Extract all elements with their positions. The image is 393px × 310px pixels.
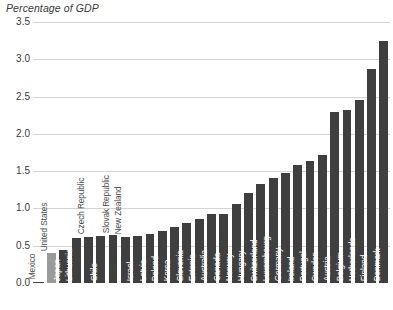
x-axis-category-label: Poland bbox=[151, 256, 159, 281]
x-axis-category-label: Switzerland bbox=[249, 239, 257, 281]
x-axis-category-label: Hungary bbox=[237, 250, 245, 281]
x-axis-category-label: Latvia bbox=[138, 259, 146, 281]
bar-slot: Israel bbox=[132, 22, 144, 283]
x-axis-category-label: United States bbox=[40, 203, 48, 252]
x-axis-category-label: Mexico bbox=[28, 254, 36, 280]
x-axis-category-label: Japan bbox=[52, 259, 60, 281]
x-axis-category-label: Australia bbox=[200, 250, 208, 281]
y-axis-tick-label: 2.5 bbox=[2, 91, 30, 102]
bar-slot: Chile bbox=[95, 22, 107, 283]
x-axis-category-label: Slovak Republic bbox=[102, 175, 110, 233]
bar-slot: Canada bbox=[218, 22, 230, 283]
bar[interactable]: Mexico bbox=[35, 282, 44, 283]
x-axis-category-label: Netherlands bbox=[348, 237, 356, 281]
bar[interactable]: Denmark bbox=[379, 41, 388, 283]
bar-slot: Estonia bbox=[193, 22, 205, 283]
bar-series: MexicoUnited StatesJapanLithuaniaCzech R… bbox=[33, 22, 390, 283]
y-axis-tick-label: 3.0 bbox=[2, 53, 30, 64]
bar-slot: Portugal bbox=[304, 22, 316, 283]
x-axis-category-label: Ireland bbox=[286, 256, 294, 281]
x-axis-category-label: Canada bbox=[212, 253, 220, 281]
bar-slot: Australia bbox=[205, 22, 217, 283]
x-axis-category-label: Portugal bbox=[299, 251, 307, 281]
bar-slot: Poland bbox=[156, 22, 168, 283]
bar-slot: Japan bbox=[58, 22, 70, 283]
x-axis-category-label: Austria bbox=[323, 256, 331, 281]
y-axis-tick-label: 1.0 bbox=[2, 202, 30, 213]
chart-title: Percentage of GDP bbox=[6, 2, 99, 14]
x-axis-category-label: Finland bbox=[360, 254, 368, 281]
x-axis-category-label: Czech Republic bbox=[77, 178, 85, 235]
bar-chart: Percentage of GDP 0.00.51.01.52.02.53.03… bbox=[0, 0, 393, 310]
bar[interactable]: Chile bbox=[96, 236, 105, 283]
x-axis-category-label: Lithuania bbox=[65, 248, 73, 281]
bar-slot: Lithuania bbox=[70, 22, 82, 283]
bar-slot: Denmark bbox=[378, 22, 390, 283]
x-axis-category-label: Estonia bbox=[188, 254, 196, 281]
bar-slot: Luxembourg bbox=[267, 22, 279, 283]
x-axis-category-label: Israel bbox=[126, 261, 134, 281]
y-axis-tick-label: 0.5 bbox=[2, 240, 30, 251]
y-axis-tick-label: 1.5 bbox=[2, 165, 30, 176]
bar-slot: Slovenia bbox=[181, 22, 193, 283]
x-axis-category-label: Germany bbox=[274, 248, 282, 281]
bar-slot: Latvia bbox=[144, 22, 156, 283]
bar-slot: Finland bbox=[365, 22, 377, 283]
bar[interactable]: Lithuania bbox=[72, 238, 81, 283]
bar-slot: Sweden bbox=[316, 22, 328, 283]
x-axis-category-label: Luxembourg bbox=[262, 236, 270, 281]
x-axis-category-label: Chile bbox=[89, 263, 97, 281]
bar-slot: Netherlands bbox=[353, 22, 365, 283]
y-axis-tick-label: 3.5 bbox=[2, 16, 30, 27]
x-axis-category-label: New Zealand bbox=[114, 187, 122, 235]
bar-slot: United States bbox=[45, 22, 57, 283]
x-axis-category-label: Sweden bbox=[311, 252, 319, 281]
plot-area: 0.00.51.01.52.02.53.03.5 MexicoUnited St… bbox=[33, 22, 390, 283]
x-axis-category-label: Slovenia bbox=[175, 250, 183, 281]
bar-slot: Korea bbox=[168, 22, 180, 283]
x-axis-category-label: Denmark bbox=[372, 248, 380, 281]
bar-slot: Slovak Republic bbox=[107, 22, 119, 283]
bar[interactable]: Slovak Republic bbox=[109, 235, 118, 283]
x-axis-category-label: Korea bbox=[163, 259, 171, 281]
y-axis-tick-label: 2.0 bbox=[2, 128, 30, 139]
x-axis-category-label: Belgium bbox=[335, 252, 343, 281]
bar-slot: Norway bbox=[230, 22, 242, 283]
x-axis-category-label: Norway bbox=[225, 253, 233, 281]
bar-slot: New Zealand bbox=[119, 22, 131, 283]
bar-slot: Germany bbox=[279, 22, 291, 283]
bar-slot: Czech Republic bbox=[82, 22, 94, 283]
bar-slot: Ireland bbox=[292, 22, 304, 283]
bar-slot: Austria bbox=[329, 22, 341, 283]
